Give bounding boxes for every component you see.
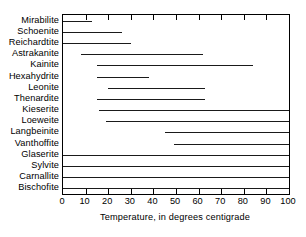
x-tick-label: 30 bbox=[125, 196, 135, 207]
range-bar bbox=[106, 121, 289, 122]
range-bar bbox=[97, 65, 253, 66]
x-tick-label: 10 bbox=[79, 196, 89, 207]
category-axis-labels: MirabiliteSchoeniteReichardtiteAstrakani… bbox=[0, 14, 59, 194]
range-bar bbox=[174, 144, 289, 145]
range-bar bbox=[108, 88, 205, 89]
x-tick-top bbox=[176, 15, 177, 20]
x-tick-top bbox=[244, 15, 245, 20]
category-label-reichardtite: Reichardtite bbox=[0, 37, 59, 47]
x-tick-top bbox=[221, 15, 222, 20]
category-label-sylvite: Sylvite bbox=[0, 160, 59, 170]
x-tick-top bbox=[108, 15, 109, 20]
range-bar bbox=[97, 77, 149, 78]
x-tick-bottom bbox=[153, 189, 154, 194]
x-axis-tick-labels: 0102030405060708090100 bbox=[0, 196, 306, 210]
x-tick-label: 20 bbox=[102, 196, 112, 207]
x-tick-bottom bbox=[221, 189, 222, 194]
x-tick-top bbox=[266, 15, 267, 20]
x-tick-label: 60 bbox=[192, 196, 202, 207]
category-label-thenardite: Thenardite bbox=[0, 93, 59, 103]
x-tick-top bbox=[131, 15, 132, 20]
x-tick-top bbox=[199, 15, 200, 20]
x-tick-label: 70 bbox=[215, 196, 225, 207]
x-tick-label: 0 bbox=[59, 196, 64, 207]
x-tick-bottom bbox=[86, 189, 87, 194]
range-bar bbox=[63, 43, 131, 44]
category-label-hexahydrite: Hexahydrite bbox=[0, 71, 59, 81]
x-tick-bottom bbox=[108, 189, 109, 194]
plot-area bbox=[62, 14, 290, 195]
x-tick-bottom bbox=[266, 189, 267, 194]
range-bar bbox=[81, 54, 203, 55]
x-axis-title: Temperature, in degrees centigrade bbox=[62, 212, 288, 222]
category-label-kieserite: Kieserite bbox=[0, 104, 59, 114]
x-tick-label: 90 bbox=[260, 196, 270, 207]
range-bar bbox=[165, 132, 289, 133]
range-bar bbox=[63, 155, 289, 156]
range-bar bbox=[99, 110, 289, 111]
category-label-astrakanite: Astrakanite bbox=[0, 48, 59, 58]
stability-range-chart: MirabiliteSchoeniteReichardtiteAstrakani… bbox=[0, 0, 306, 237]
x-tick-bottom bbox=[244, 189, 245, 194]
category-label-langbeinite: Langbeinite bbox=[0, 126, 59, 136]
category-label-schoenite: Schoenite bbox=[0, 26, 59, 36]
category-label-bischofite: Bischofite bbox=[0, 182, 59, 192]
x-tick-bottom bbox=[131, 189, 132, 194]
x-tick-top bbox=[86, 15, 87, 20]
category-label-kainite: Kainite bbox=[0, 59, 59, 69]
x-tick-bottom bbox=[176, 189, 177, 194]
range-bar bbox=[63, 21, 92, 22]
category-label-loeweite: Loeweite bbox=[0, 115, 59, 125]
x-tick-label: 100 bbox=[280, 196, 295, 207]
category-label-mirabilite: Mirabilite bbox=[0, 15, 59, 25]
x-tick-label: 40 bbox=[147, 196, 157, 207]
range-bar bbox=[63, 166, 289, 167]
category-label-leonite: Leonite bbox=[0, 82, 59, 92]
x-tick-label: 50 bbox=[170, 196, 180, 207]
category-label-vanthoffite: Vanthoffite bbox=[0, 138, 59, 148]
range-bar bbox=[63, 32, 122, 33]
range-bar bbox=[63, 177, 289, 178]
x-tick-bottom bbox=[199, 189, 200, 194]
x-tick-top bbox=[153, 15, 154, 20]
x-tick-label: 80 bbox=[238, 196, 248, 207]
category-label-carnallite: Carnallite bbox=[0, 171, 59, 181]
range-bar bbox=[97, 99, 205, 100]
category-label-glaserite: Glaserite bbox=[0, 149, 59, 159]
